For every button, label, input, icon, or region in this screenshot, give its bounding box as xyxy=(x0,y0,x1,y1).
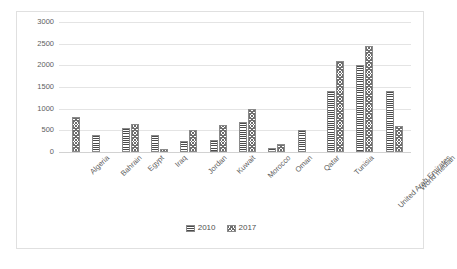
bar-2010 xyxy=(356,65,364,152)
bar-group xyxy=(147,22,176,152)
x-tick-label: Bahrain xyxy=(119,154,143,178)
bar-2010 xyxy=(298,130,306,152)
bar-2010 xyxy=(386,91,394,152)
bar-group xyxy=(352,22,381,152)
bar-2010 xyxy=(210,140,218,152)
x-tick-label: Jordan xyxy=(207,154,229,176)
bar-2017 xyxy=(189,130,197,152)
x-tick-label: Qatar xyxy=(323,154,342,173)
legend-label: 2010 xyxy=(198,224,216,232)
bar-group xyxy=(382,22,411,152)
bar-2010 xyxy=(327,91,335,152)
bar-2017 xyxy=(336,61,344,152)
chart-frame: 050010001500200025003000 AlgeriaBahrainE… xyxy=(16,11,424,249)
y-tick-label: 1000 xyxy=(37,105,54,113)
x-axis-labels: AlgeriaBahrainEgyptIraqJordanKuwaitMoroc… xyxy=(59,154,411,216)
y-tick-label: 3000 xyxy=(37,18,54,26)
gridline-0 xyxy=(59,152,411,153)
bar-group xyxy=(294,22,323,152)
y-tick-label: 2500 xyxy=(37,40,54,48)
x-tick-label: Tunisia xyxy=(353,154,375,176)
x-tick-label: Kuwait xyxy=(236,154,257,175)
x-tick-label: Oman xyxy=(294,154,314,174)
bar-group xyxy=(206,22,235,152)
y-tick-label: 2000 xyxy=(37,62,54,70)
bar-group xyxy=(118,22,147,152)
chart-legend: 20102017 xyxy=(17,224,425,232)
bar-2017 xyxy=(72,117,80,152)
y-tick-label: 0 xyxy=(50,148,54,156)
bar-group xyxy=(59,22,88,152)
bar-2017 xyxy=(160,149,168,152)
bar-2017 xyxy=(248,109,256,152)
bar-2017 xyxy=(277,144,285,152)
legend-swatch-icon xyxy=(227,225,236,232)
x-tick-label: Morocco xyxy=(267,154,293,180)
x-tick-label: Algeria xyxy=(89,154,111,176)
legend-label: 2017 xyxy=(239,224,257,232)
plot-area: 050010001500200025003000 xyxy=(59,22,411,152)
bar-2017 xyxy=(365,46,373,152)
bar-2017 xyxy=(131,124,139,152)
x-tick-label: Iraq xyxy=(174,154,189,169)
bar-2010 xyxy=(239,122,247,152)
bar-group xyxy=(176,22,205,152)
legend-item-2010[interactable]: 2010 xyxy=(186,224,216,232)
bar-2017 xyxy=(219,125,227,152)
bar-2010 xyxy=(92,135,100,152)
y-tick-label: 500 xyxy=(41,127,54,135)
bar-group xyxy=(323,22,352,152)
x-tick-label: World median xyxy=(419,154,457,192)
bar-2010 xyxy=(122,128,130,152)
legend-item-2017[interactable]: 2017 xyxy=(227,224,257,232)
bar-2017 xyxy=(395,126,403,152)
x-tick-label: Egypt xyxy=(147,154,166,173)
bar-2010 xyxy=(151,135,159,152)
bar-group xyxy=(264,22,293,152)
bar-group xyxy=(88,22,117,152)
bars-layer xyxy=(59,22,411,152)
bar-2010 xyxy=(180,141,188,152)
bar-2010 xyxy=(268,148,276,152)
y-tick-label: 1500 xyxy=(37,83,54,91)
bar-group xyxy=(235,22,264,152)
legend-swatch-icon xyxy=(186,225,195,232)
